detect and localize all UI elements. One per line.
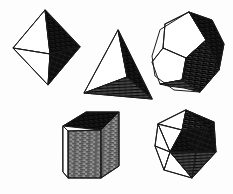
cube-face-left bbox=[63, 126, 68, 178]
engraving-plate bbox=[0, 0, 233, 194]
cube-face-front bbox=[68, 130, 101, 178]
solid-hexahedron bbox=[63, 112, 119, 178]
solids-canvas bbox=[0, 0, 233, 194]
